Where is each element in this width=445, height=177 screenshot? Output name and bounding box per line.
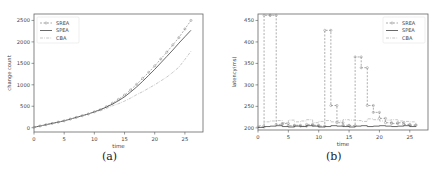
y-tick-label: 0 (27, 125, 30, 131)
x-tick-label: 10 (315, 134, 322, 140)
y-tick-label: 500 (20, 103, 30, 109)
legend-label-spea: SPEA (402, 27, 415, 33)
x-tick-label: 25 (182, 136, 189, 142)
legend-label-cba: CBA (56, 35, 67, 41)
legend-label-srea: SREA (402, 20, 416, 26)
y-axis-label: change count (6, 55, 13, 90)
y-tick-label: 300 (244, 82, 254, 88)
legend: SREASPEACBA (37, 17, 79, 43)
x-tick-label: 5 (287, 134, 290, 140)
legend-label-spea: SPEA (56, 27, 69, 33)
chart-panel-b: 0510152025200250300350400450timelatency(… (222, 0, 445, 177)
x-tick-label: 25 (406, 134, 413, 140)
y-tick-label: 2500 (17, 17, 30, 23)
y-tick-label: 250 (244, 103, 254, 109)
y-tick-label: 400 (244, 39, 254, 45)
y-tick-label: 450 (244, 17, 254, 23)
y-tick-label: 1500 (17, 60, 30, 66)
legend-label-cba: CBA (402, 35, 413, 41)
x-tick-label: 15 (346, 134, 353, 140)
caption-b: (b) (326, 150, 342, 163)
x-tick-label: 20 (151, 136, 158, 142)
x-tick-label: 20 (376, 134, 383, 140)
x-tick-label: 0 (32, 136, 35, 142)
y-tick-label: 2000 (17, 39, 30, 45)
legend-label-srea: SREA (56, 20, 70, 26)
y-axis-label: latency(ms) (231, 57, 238, 88)
legend: SREASPEACBA (383, 17, 425, 43)
x-axis-label: time (112, 143, 125, 149)
x-tick-label: 5 (63, 136, 66, 142)
y-tick-label: 350 (244, 60, 254, 66)
x-tick-label: 0 (256, 134, 259, 140)
caption-a: (a) (102, 150, 117, 163)
x-tick-label: 10 (91, 136, 98, 142)
chart-panel-a: 051015202505001000150020002500timechange… (0, 0, 222, 177)
x-axis-label: time (337, 141, 350, 147)
x-tick-label: 15 (121, 136, 128, 142)
y-tick-label: 1000 (17, 82, 30, 88)
y-tick-label: 200 (244, 125, 254, 131)
